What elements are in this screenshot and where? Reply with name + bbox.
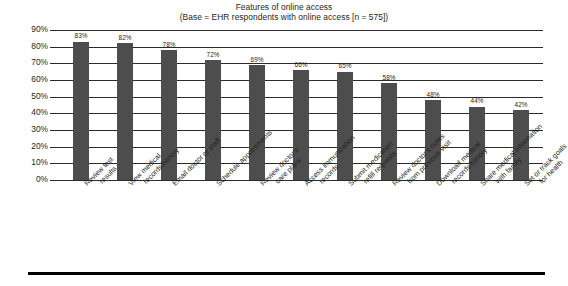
- y-axis-tick-mark: [50, 63, 58, 64]
- y-axis-tick-label: 40%: [31, 107, 48, 118]
- y-axis-tick-label: 10%: [31, 157, 48, 168]
- chart-title-block: Features of online access (Base = EHR re…: [0, 2, 568, 22]
- x-axis-category-labels: Review testresultsView medicalrecords/hi…: [58, 181, 558, 276]
- bar-value-label: 48%: [411, 91, 455, 99]
- y-axis-tick-mark: [50, 113, 58, 114]
- y-axis-tick-mark: [50, 130, 58, 131]
- y-axis-tick-label: 0%: [36, 174, 48, 185]
- bar-value-label: 66%: [279, 61, 323, 69]
- bar: [117, 43, 133, 180]
- y-axis-tick-label: 90%: [31, 24, 48, 35]
- y-axis-tick-mark: [50, 180, 58, 181]
- y-axis-tick-mark: [50, 80, 58, 81]
- bar-value-label: 58%: [367, 74, 411, 82]
- y-axis-tick-mark: [50, 30, 58, 31]
- page-title: Features of online access: [0, 2, 568, 12]
- y-axis-tick-label: 70%: [31, 57, 48, 68]
- bar-value-label: 42%: [499, 101, 543, 109]
- bar-value-label: 83%: [59, 32, 103, 40]
- y-axis-tick-label: 30%: [31, 124, 48, 135]
- y-axis-tick-mark: [50, 147, 58, 148]
- bar-value-label: 65%: [323, 62, 367, 70]
- bar-value-label: 44%: [455, 97, 499, 105]
- bottom-divider: [28, 272, 545, 275]
- bar-value-label: 72%: [191, 51, 235, 59]
- bar-value-label: 78%: [147, 41, 191, 49]
- bar-group: 83%: [59, 30, 103, 180]
- y-axis-tick-label: 60%: [31, 74, 48, 85]
- bar: [205, 60, 221, 180]
- y-axis-tick-mark: [50, 163, 58, 164]
- bar-value-label: 69%: [235, 56, 279, 64]
- bar: [73, 42, 89, 180]
- chart-subtitle: (Base = EHR respondents with online acce…: [0, 12, 568, 22]
- bar-value-label: 82%: [103, 34, 147, 42]
- y-axis-tick-mark: [50, 47, 58, 48]
- y-axis-tick-label: 80%: [31, 41, 48, 52]
- y-axis-tick-mark: [50, 97, 58, 98]
- y-axis-tick-label: 20%: [31, 141, 48, 152]
- y-axis-tick-label: 50%: [31, 91, 48, 102]
- y-axis: 0%10%20%30%40%50%60%70%80%90%: [0, 30, 58, 180]
- bar: [249, 65, 265, 180]
